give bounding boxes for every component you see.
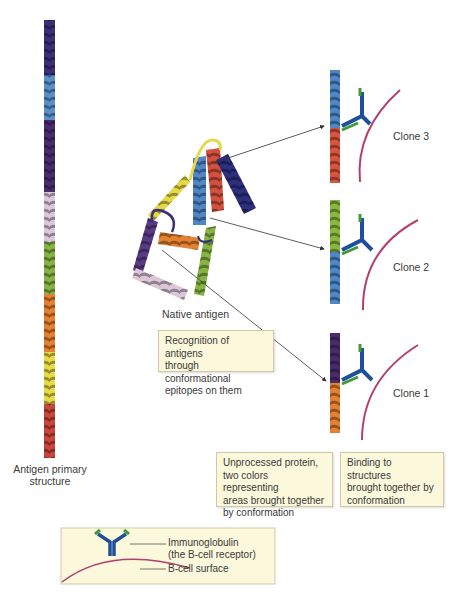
clone-3-label: Clone 3 [393, 130, 429, 142]
clone-3-graphic [330, 70, 400, 183]
unprocessed-note-line3: areas brought together [223, 495, 326, 508]
immunoglobulin-label-line2: (the B-cell receptor) [168, 549, 256, 561]
immunoglobulin-legend-label: Immunoglobulin (the B-cell receptor) [168, 537, 256, 561]
binding-note-line2: brought together by [347, 482, 437, 495]
recognition-note: Recognition of antigens through conforma… [158, 330, 274, 372]
binding-note: Binding to structures brought together b… [340, 452, 444, 507]
unprocessed-protein-note: Unprocessed protein, two colors represen… [216, 452, 333, 507]
clone-2-graphic [330, 200, 418, 310]
clone-2-label: Clone 2 [393, 261, 429, 273]
recognition-note-line1: Recognition of antigens [165, 335, 267, 360]
immunoglobulin-label-line1: Immunoglobulin [168, 537, 256, 549]
primary-label-line2: structure [0, 475, 100, 487]
binding-note-line1: Binding to structures [347, 457, 437, 482]
primary-label-line1: Antigen primary [0, 463, 100, 475]
recognition-note-line2: through conformational [165, 360, 267, 385]
unprocessed-note-line4: by conformation [223, 507, 326, 520]
b-cell-surface-legend-label: B-cell surface [168, 563, 229, 575]
antigen-primary-structure-label: Antigen primary structure [0, 463, 100, 487]
clone-1-label: Clone 1 [393, 387, 429, 399]
unprocessed-note-line2: two colors representing [223, 470, 326, 495]
recognition-note-line3: epitopes on them [165, 385, 267, 398]
unprocessed-note-line1: Unprocessed protein, [223, 457, 326, 470]
antigen-primary-structure [44, 20, 55, 458]
binding-note-line3: conformation [347, 495, 437, 508]
native-antigen-label: Native antigen [162, 308, 229, 320]
